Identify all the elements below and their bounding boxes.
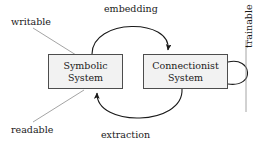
node-connectionist-system-line1: Connectionist: [152, 60, 219, 71]
node-symbolic-system-line1: Symbolic: [63, 60, 107, 71]
edge-label-trainable: trainable: [243, 4, 254, 48]
edge-label-embedding: embedding: [104, 3, 158, 14]
readable-leader-line: [33, 90, 84, 122]
trainable-self-loop-path: [228, 61, 248, 84]
node-connectionist-system-line2: System: [168, 72, 203, 83]
node-connectionist-system[interactable]: Connectionist System: [143, 54, 228, 89]
node-symbolic-system[interactable]: Symbolic System: [48, 54, 123, 89]
edge-label-extraction: extraction: [101, 129, 150, 140]
diagram-canvas: Symbolic System Connectionist System emb…: [0, 0, 276, 147]
extraction-edge-path: [97, 89, 182, 118]
node-symbolic-system-line2: System: [68, 72, 103, 83]
annotation-label-readable: readable: [11, 124, 53, 135]
embedding-edge-path: [92, 26, 168, 54]
annotation-label-writable: writable: [11, 16, 51, 27]
